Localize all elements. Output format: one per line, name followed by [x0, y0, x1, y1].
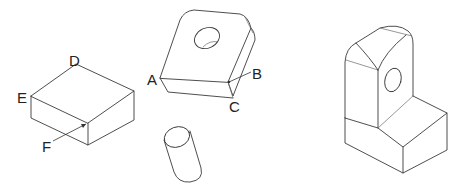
bracket-upright-top-edge [346, 60, 378, 70]
holed-block-front-corner [228, 82, 233, 98]
hole-icon [191, 23, 223, 52]
bracket-upright-outline [345, 26, 413, 118]
l-bracket-object [345, 26, 447, 173]
cylinder-object [161, 123, 201, 182]
label-b: B [252, 65, 262, 82]
isometric-drawing: D E F A B C [0, 0, 465, 192]
holed-block-top-face [160, 10, 251, 82]
leader-f [53, 124, 86, 141]
point-b [228, 81, 230, 83]
bracket-hole-icon [382, 66, 404, 93]
box-top-face [31, 64, 134, 123]
bracket-upright-round [356, 43, 378, 70]
holed-block-object: A B C [147, 10, 262, 115]
label-e: E [17, 89, 27, 106]
bracket-base-top [345, 96, 447, 147]
bracket-top-back-edge [380, 28, 412, 36]
holed-block-round-edge [245, 17, 253, 33]
label-a: A [147, 71, 157, 88]
bracket-base-sides [345, 113, 447, 173]
holed-block-right-face [228, 28, 255, 96]
label-c: C [229, 98, 240, 115]
label-d: D [69, 52, 80, 69]
cylinder-body [164, 131, 202, 182]
bracket-upright-base-joint [378, 96, 413, 128]
holed-block-front-bottom [160, 78, 233, 98]
box-object: D E F [17, 52, 134, 155]
bracket-upright-top-curve [378, 35, 406, 70]
label-f: F [42, 138, 51, 155]
leader-b [229, 72, 251, 82]
